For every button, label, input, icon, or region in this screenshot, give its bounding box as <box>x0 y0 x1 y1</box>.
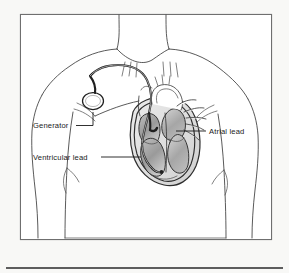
label-atrial-lead: Atrial lead <box>209 127 244 136</box>
pacemaker-diagram-svg: Generator Ventricular lead Atrial lead <box>0 0 289 273</box>
label-generator: Generator <box>33 121 69 130</box>
label-ventricular-lead: Ventricular lead <box>33 153 88 162</box>
pacemaker-figure: Generator Ventricular lead Atrial lead <box>0 0 289 273</box>
ventricular-lead-tip <box>160 170 164 174</box>
